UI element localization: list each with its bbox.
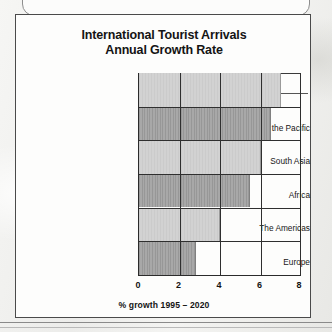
chart-title: International Tourist Arrivals Annual Gr…	[16, 28, 312, 58]
rowline-5	[139, 241, 301, 242]
scan-artifact-bottom-rule-secondary	[0, 327, 332, 328]
x-axis-title: % growth 1995 – 2020	[16, 300, 312, 310]
rowline-2	[139, 140, 301, 141]
plot-area	[138, 73, 301, 276]
chart-title-line-1: International Tourist Arrivals	[82, 28, 247, 42]
bar-africa	[139, 174, 250, 208]
xtick-label-6: 6	[251, 280, 269, 290]
chart-figure-frame: International Tourist Arrivals Annual Gr…	[15, 14, 311, 318]
xtick-label-0: 0	[129, 280, 147, 290]
xtick-label-4: 4	[210, 280, 228, 290]
chart-title-line-2: Annual Growth Rate	[16, 43, 312, 58]
bar-south-asia	[139, 140, 261, 174]
rowline-1	[139, 107, 301, 108]
scan-artifact-bottom-rule	[0, 322, 332, 323]
rowline-3	[139, 174, 301, 175]
bar-east-asia-and-the-pacific	[139, 107, 271, 141]
bar-europe	[139, 241, 196, 275]
rowline-4	[139, 208, 301, 209]
xtick-label-8: 8	[290, 280, 308, 290]
xtick-label-2: 2	[170, 280, 188, 290]
